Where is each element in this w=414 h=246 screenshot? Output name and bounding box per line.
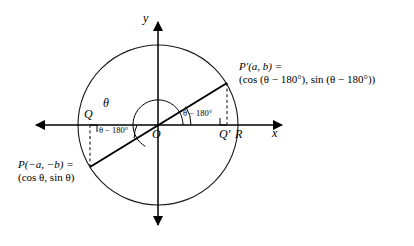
origin-label: O — [152, 127, 161, 141]
point-annotation-P-prime-line1: P′(a, b) = — [239, 60, 375, 73]
right-angle-marker-Qprime — [220, 118, 227, 125]
point-annotation-P-line2: (cos θ, sin θ) — [18, 171, 74, 184]
point-annotation-P-line1: P(−a, −b) = — [18, 158, 74, 171]
right-angle-marker-Q — [90, 125, 97, 132]
point-annotation-P: P(−a, −b) = (cos θ, sin θ) — [18, 158, 74, 184]
y-axis-label: y — [143, 11, 148, 25]
angle-label-theta-minus-180-right: θ − 180° — [183, 108, 212, 118]
point-annotation-P-prime: P′(a, b) = (cos (θ − 180°), sin (θ − 180… — [239, 60, 375, 86]
x-axis-label: x — [272, 126, 277, 140]
point-annotation-P-prime-line2: (cos (θ − 180°), sin (θ − 180°)) — [239, 73, 375, 86]
angle-label-theta: θ — [103, 96, 109, 110]
point-label-Q-prime: Q′ — [219, 127, 230, 141]
point-label-Q: Q — [84, 107, 93, 121]
point-label-R: R — [235, 127, 242, 141]
angle-label-theta-minus-180-left: θ − 180° — [99, 125, 128, 135]
diagram-canvas — [0, 0, 414, 246]
unit-circle-figure: y x O Q Q′ R θ θ − 180° θ − 180° P′(a, b… — [0, 0, 414, 246]
